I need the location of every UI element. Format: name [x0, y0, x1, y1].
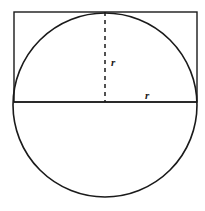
circle-shape	[13, 13, 197, 197]
geometry-diagram: r r	[0, 0, 205, 211]
horizontal-radius-label: r	[145, 89, 150, 101]
vertical-radius-label: r	[111, 56, 116, 68]
figure-root: r r	[0, 0, 205, 211]
rectangle-shape	[14, 12, 197, 102]
